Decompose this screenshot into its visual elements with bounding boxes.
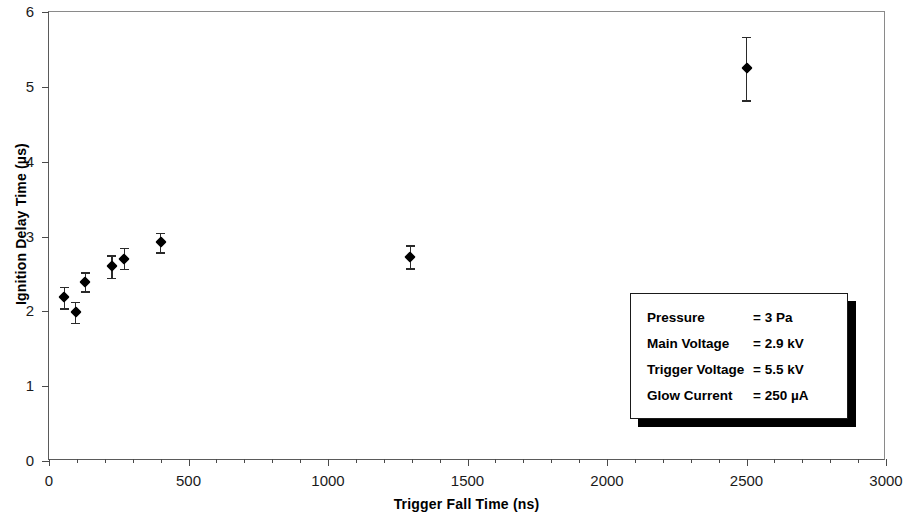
data-point-marker [70,306,81,317]
error-bar-cap-bottom [742,100,751,102]
x-axis-tick [328,459,329,466]
legend-row-key: Pressure [647,305,753,331]
y-axis-title: Ignition Delay Time (µs) [13,99,29,349]
data-point-marker [405,252,416,263]
y-axis-tick [42,386,49,387]
x-axis-tick-label: 3000 [856,473,912,488]
legend-row: Glow Current= 250 µA [631,383,847,409]
x-axis-minor-tick [300,459,301,463]
y-axis-tick [42,461,49,462]
x-axis-minor-tick [244,459,245,463]
error-bar-cap-bottom [71,323,80,325]
x-axis-minor-tick [523,459,524,463]
chart-figure: 0123456050010001500200025003000 Trigger … [0,0,912,520]
legend-row: Main Voltage= 2.9 kV [631,331,847,357]
error-bar-cap-bottom [60,308,69,310]
legend-row-value: = 2.9 kV [753,331,804,357]
y-axis-tick [42,87,49,88]
y-axis-tick-label: 1 [4,378,34,393]
error-bar-cap-top [742,37,751,39]
x-axis-minor-tick [440,459,441,463]
x-axis-tick-label: 500 [159,473,219,488]
x-axis-tick [468,459,469,466]
x-axis-minor-tick [412,459,413,463]
x-axis-tick-label: 0 [19,473,79,488]
legend-row-value: = 250 µA [753,383,808,409]
legend-row-value: = 3 Pa [753,305,792,331]
y-axis-tick-label: 0 [4,453,34,468]
x-axis-tick-label: 1000 [298,473,358,488]
legend-row: Trigger Voltage= 5.5 kV [631,357,847,383]
data-point-marker [741,62,752,73]
data-point-marker [155,237,166,248]
error-bar-cap-top [120,248,129,250]
error-bar-cap-top [81,272,90,274]
x-axis-minor-tick [802,459,803,463]
x-axis-minor-tick [774,459,775,463]
error-bar-cap-bottom [81,291,90,293]
x-axis-minor-tick [161,459,162,463]
x-axis-minor-tick [77,459,78,463]
x-axis-minor-tick [356,459,357,463]
x-axis-minor-tick [495,459,496,463]
legend-row-value: = 5.5 kV [753,357,804,383]
x-axis-minor-tick [830,459,831,463]
error-bar-cap-bottom [406,268,415,270]
x-axis-tick [49,459,50,466]
x-axis-minor-tick [719,459,720,463]
x-axis-minor-tick [635,459,636,463]
x-axis-tick [747,459,748,466]
error-bar-cap-top [60,287,69,289]
error-bar-cap-bottom [107,278,116,280]
legend-row-key: Glow Current [647,383,753,409]
x-axis-minor-tick [551,459,552,463]
x-axis-tick [886,459,887,466]
y-axis-tick [42,162,49,163]
x-axis-tick-label: 2500 [717,473,777,488]
error-bar-cap-bottom [120,269,129,271]
legend-row-key: Main Voltage [647,331,753,357]
data-point-marker [106,261,117,272]
x-axis-minor-tick [691,459,692,463]
x-axis-tick [189,459,190,466]
error-bar-cap-top [156,233,165,235]
y-axis-tick-label: 5 [4,79,34,94]
error-bar-cap-top [71,302,80,304]
x-axis-title: Trigger Fall Time (ns) [48,496,885,512]
x-axis-minor-tick [133,459,134,463]
x-axis-minor-tick [579,459,580,463]
y-axis-tick [42,311,49,312]
x-axis-minor-tick [663,459,664,463]
legend-row-key: Trigger Voltage [647,357,753,383]
error-bar-cap-top [107,255,116,257]
parameters-legend-box: Pressure= 3 PaMain Voltage= 2.9 kVTrigge… [630,293,848,419]
error-bar-cap-bottom [156,252,165,254]
x-axis-minor-tick [858,459,859,463]
legend-row: Pressure= 3 Pa [631,305,847,331]
y-axis-tick-label: 6 [4,4,34,19]
x-axis-minor-tick [272,459,273,463]
x-axis-minor-tick [384,459,385,463]
y-axis-tick [42,237,49,238]
x-axis-minor-tick [216,459,217,463]
data-point-marker [59,291,70,302]
data-point-marker [119,253,130,264]
x-axis-minor-tick [105,459,106,463]
y-axis-tick [42,12,49,13]
x-axis-tick [607,459,608,466]
error-bar-cap-top [406,245,415,247]
data-point-marker [80,276,91,287]
x-axis-tick-label: 2000 [577,473,637,488]
x-axis-tick-label: 1500 [438,473,498,488]
